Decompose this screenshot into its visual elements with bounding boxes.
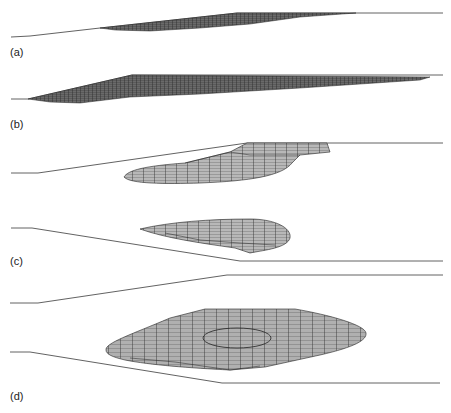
mesh-surface xyxy=(106,309,366,370)
panel-d xyxy=(10,275,443,383)
boundary-line-top xyxy=(10,275,443,303)
mesh-surface-upper xyxy=(124,143,330,183)
mesh-surface xyxy=(100,13,356,31)
panel-label-c: (c) xyxy=(10,255,23,267)
mesh-surface xyxy=(28,75,430,103)
mesh-surface-lower xyxy=(140,219,290,253)
panel-b xyxy=(11,75,443,103)
figure-canvas xyxy=(0,0,451,413)
panel-label-b: (b) xyxy=(10,118,23,130)
panel-c xyxy=(11,143,443,261)
panel-a xyxy=(11,13,443,37)
panel-label-d: (d) xyxy=(10,390,23,402)
panel-label-a: (a) xyxy=(10,46,23,58)
